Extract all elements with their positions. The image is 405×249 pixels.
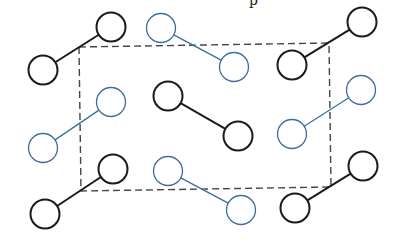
atom-circle bbox=[348, 8, 377, 37]
atom-circle bbox=[97, 13, 126, 42]
molecule-top-left bbox=[29, 13, 126, 85]
molecule-bottom-center bbox=[154, 157, 256, 225]
atom-circle bbox=[97, 88, 126, 117]
bond-line bbox=[304, 98, 349, 126]
atom-circle bbox=[278, 51, 307, 80]
bond-line bbox=[174, 35, 221, 60]
atom-circle bbox=[281, 194, 310, 223]
molecule-bottom-left bbox=[31, 155, 128, 229]
bond-line bbox=[55, 35, 98, 63]
bond-line bbox=[181, 103, 226, 129]
atom-circle bbox=[347, 76, 376, 105]
bond-line bbox=[55, 110, 99, 140]
atom-circle bbox=[349, 152, 378, 181]
bond-line bbox=[181, 178, 228, 203]
atom-circle bbox=[278, 120, 307, 149]
atom-circle bbox=[154, 82, 183, 111]
molecule-mid-right bbox=[278, 76, 376, 149]
molecule-top-center bbox=[147, 14, 249, 82]
atom-circle bbox=[29, 134, 58, 163]
atom-circle bbox=[220, 53, 249, 82]
bond-line bbox=[57, 177, 101, 206]
atom-circle bbox=[31, 200, 60, 229]
molecules bbox=[29, 8, 378, 229]
crystal-packing-diagram bbox=[0, 0, 405, 249]
atom-circle bbox=[147, 14, 176, 43]
atom-circle bbox=[227, 196, 256, 225]
molecule-mid-left bbox=[29, 88, 126, 163]
atom-circle bbox=[29, 56, 58, 85]
atom-circle bbox=[99, 155, 128, 184]
atom-circle bbox=[154, 157, 183, 186]
molecule-center bbox=[154, 82, 253, 151]
atom-circle bbox=[224, 122, 253, 151]
